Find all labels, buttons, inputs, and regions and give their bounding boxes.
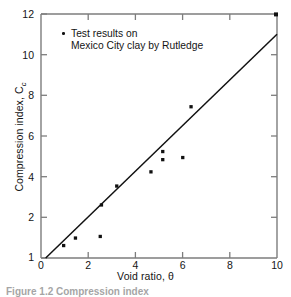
data-point: [274, 12, 278, 16]
y-axis-title-text: Compression index, C: [13, 86, 25, 191]
data-point: [62, 244, 65, 247]
legend-marker-dot-icon: [62, 27, 71, 35]
legend-label-line2: Mexico City clay by Rutledge: [71, 40, 232, 51]
y-axis-ticks-right: [271, 55, 277, 218]
data-point: [161, 150, 164, 153]
x-axis-title-text: Void ratio, θ: [117, 270, 174, 282]
legend-label-line1: Test results on: [71, 27, 137, 40]
data-point: [100, 203, 103, 206]
trend-line: [46, 34, 277, 258]
legend: Test results on Mexico City clay by Rutl…: [62, 27, 232, 51]
legend-entry: Test results on: [62, 27, 232, 40]
data-point: [115, 184, 118, 187]
x-axis-title: Void ratio, θ: [0, 270, 291, 282]
x-axis-ticks: [88, 252, 230, 258]
x-axis-ticks-top: [88, 14, 230, 20]
data-point: [161, 158, 164, 161]
data-point: [189, 105, 192, 108]
figure-caption: Figure 1.2 Compression index: [6, 286, 149, 297]
y-axis-title-subscript: c: [19, 82, 28, 86]
data-point: [99, 235, 102, 238]
y-axis-ticks: [41, 14, 47, 258]
data-point: [74, 236, 77, 239]
data-point: [181, 156, 184, 159]
data-point: [149, 170, 152, 173]
y-axis-title: Compression index, Cc: [9, 17, 23, 257]
